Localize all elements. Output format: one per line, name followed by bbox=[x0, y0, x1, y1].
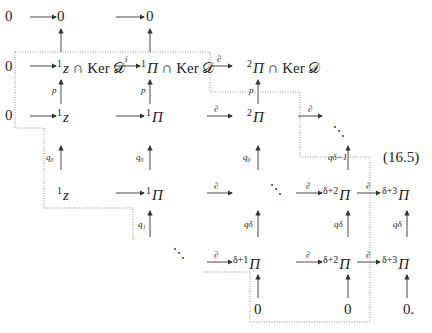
node-zero: 0 bbox=[344, 302, 352, 317]
node-2pi: 2Π bbox=[247, 108, 264, 125]
equation-number: (16.5) bbox=[383, 150, 419, 165]
node-zero: 0 bbox=[57, 9, 65, 24]
node-1pi: 1Π bbox=[146, 186, 163, 203]
vertical-label-q-delta: qδ bbox=[244, 220, 253, 229]
node-delta3-pi: δ+3Π bbox=[382, 186, 409, 203]
vertical-label-q1: q₁ bbox=[138, 220, 146, 229]
node-delta3-pi: δ+3Π bbox=[382, 255, 409, 272]
vertical-label-p: p bbox=[52, 86, 57, 95]
node-zero: 0 bbox=[5, 108, 13, 123]
node-1z: 1z bbox=[57, 108, 69, 125]
arrow-label-i: i bbox=[125, 55, 128, 64]
diagonal-dots: ⋱ bbox=[333, 125, 346, 137]
diagonal-dots: ⋱ bbox=[173, 247, 186, 259]
arrow-label-partial: ∂ bbox=[366, 182, 370, 191]
node-delta1-pi: δ+1Π bbox=[233, 255, 260, 272]
arrow-label-partial: ∂ bbox=[306, 251, 310, 260]
vertical-label-p: p bbox=[249, 86, 254, 95]
vertical-label-q0: q₀ bbox=[136, 153, 144, 162]
node-1pi-cap-ker: 1Π ∩ Ker 𝒟 bbox=[141, 59, 214, 76]
arrow-label-partial: ∂ bbox=[217, 55, 221, 64]
arrow-label-partial: ∂ bbox=[214, 251, 218, 260]
node-zero: 0. bbox=[403, 302, 414, 317]
node-1z: 1z bbox=[57, 186, 69, 203]
node-1z-cap-ker: 1z ∩ Ker 𝒟 bbox=[57, 59, 125, 76]
vertical-label-q-delta: qδ bbox=[334, 220, 343, 229]
vertical-label-q-delta-minus-1: qδ−1 bbox=[328, 153, 347, 162]
diagonal-dots: ⋱ bbox=[270, 183, 283, 195]
node-zero: 0 bbox=[5, 9, 13, 24]
node-1pi: 1Π bbox=[146, 108, 163, 125]
horizontal-arrows bbox=[30, 17, 380, 262]
vertical-label-q0: q₀ bbox=[46, 153, 54, 162]
vertical-label-q0: q₀ bbox=[243, 153, 251, 162]
arrow-label-partial: ∂ bbox=[366, 251, 370, 260]
node-zero: 0 bbox=[254, 302, 262, 317]
node-zero: 0 bbox=[5, 59, 13, 74]
arrow-label-partial: ∂ bbox=[306, 182, 310, 191]
vertical-label-p: p bbox=[141, 86, 146, 95]
node-zero: 0 bbox=[146, 9, 154, 24]
arrow-label-partial: ∂ bbox=[308, 105, 312, 114]
arrow-label-partial: ∂ bbox=[214, 182, 218, 191]
vertical-label-q-delta: qδ bbox=[393, 220, 402, 229]
node-delta2-pi: δ+2Π bbox=[323, 186, 350, 203]
arrow-label-partial: ∂ bbox=[214, 105, 218, 114]
commutative-diagram: 0 0 0 0 1z ∩ Ker 𝒟 i 1Π ∩ Ker 𝒟 ∂ 2Π ∩ K… bbox=[0, 0, 432, 333]
node-delta2-pi: δ+2Π bbox=[323, 255, 350, 272]
arrows-and-path bbox=[0, 0, 432, 333]
node-2pi-cap-ker: 2Π ∩ Ker 𝒟 bbox=[247, 59, 320, 76]
